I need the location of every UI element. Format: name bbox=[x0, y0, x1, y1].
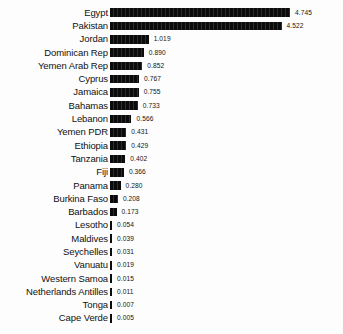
value-label: 0.755 bbox=[144, 88, 161, 96]
bar bbox=[110, 195, 118, 204]
category-label: Cyprus bbox=[0, 74, 110, 84]
bar bbox=[110, 248, 112, 257]
value-label: 0.280 bbox=[126, 182, 143, 190]
category-label: Bahamas bbox=[0, 101, 110, 111]
value-label: 1.019 bbox=[154, 35, 171, 43]
bar bbox=[110, 75, 139, 84]
value-label: 0.054 bbox=[117, 221, 134, 229]
category-label: Yemen Arab Rep bbox=[0, 61, 110, 71]
value-label: 0.208 bbox=[123, 195, 140, 203]
bar-texture bbox=[110, 141, 126, 150]
bar-track: 0.005 bbox=[110, 312, 343, 325]
bar-row: Ethiopia0.429 bbox=[0, 139, 343, 152]
category-label: Vanuatu bbox=[0, 260, 110, 270]
bar bbox=[110, 115, 131, 124]
bar-track: 0.429 bbox=[110, 139, 343, 152]
bar-track: 0.431 bbox=[110, 126, 343, 139]
category-label: Dominican Rep bbox=[0, 48, 110, 58]
bar-track: 0.208 bbox=[110, 192, 343, 205]
value-label: 0.011 bbox=[117, 288, 134, 296]
bar bbox=[110, 274, 112, 283]
bar-track: 0.755 bbox=[110, 86, 343, 99]
bar-texture bbox=[110, 234, 112, 243]
bar-track: 4.745 bbox=[110, 6, 343, 19]
bar-row: Cape Verde0.005 bbox=[0, 312, 343, 325]
bar-row: Bahamas0.733 bbox=[0, 99, 343, 112]
bar-row: Cyprus0.767 bbox=[0, 72, 343, 85]
value-label: 0.890 bbox=[149, 49, 166, 57]
bar-track: 0.011 bbox=[110, 285, 343, 298]
bar-texture bbox=[110, 261, 112, 270]
bar-row: Western Samoa0.015 bbox=[0, 272, 343, 285]
bar-texture bbox=[110, 168, 124, 177]
bar bbox=[110, 128, 126, 137]
value-label: 0.431 bbox=[131, 128, 148, 136]
value-label: 0.039 bbox=[117, 235, 134, 243]
bar bbox=[110, 35, 149, 44]
value-label: 0.031 bbox=[117, 248, 134, 256]
value-label: 0.767 bbox=[144, 75, 161, 83]
bar-track: 0.402 bbox=[110, 152, 343, 165]
bar-chart: Egypt4.745Pakistan4.522Jordan1.019Domini… bbox=[0, 0, 343, 334]
bar bbox=[110, 48, 144, 57]
bar-row: Pakistan4.522 bbox=[0, 19, 343, 32]
bar bbox=[110, 221, 112, 230]
bar-track: 4.522 bbox=[110, 19, 343, 32]
category-label: Maldives bbox=[0, 234, 110, 244]
bar bbox=[110, 301, 112, 310]
category-label: Tanzania bbox=[0, 154, 110, 164]
bar-row: Netherlands Antilles0.011 bbox=[0, 285, 343, 298]
bar-track: 0.366 bbox=[110, 166, 343, 179]
bar-track: 0.031 bbox=[110, 245, 343, 258]
value-label: 4.522 bbox=[287, 22, 304, 30]
category-label: Lesotho bbox=[0, 220, 110, 230]
category-label: Tonga bbox=[0, 300, 110, 310]
category-label: Yemen PDR bbox=[0, 127, 110, 137]
bar-track: 0.019 bbox=[110, 259, 343, 272]
bar-texture bbox=[110, 128, 126, 137]
bar-row: Maldives0.039 bbox=[0, 232, 343, 245]
bar-row: Egypt4.745 bbox=[0, 6, 343, 19]
bar-track: 0.566 bbox=[110, 112, 343, 125]
bar bbox=[110, 141, 126, 150]
value-label: 0.566 bbox=[136, 115, 153, 123]
category-label: Pakistan bbox=[0, 21, 110, 31]
category-label: Burkina Faso bbox=[0, 194, 110, 204]
value-label: 0.852 bbox=[147, 62, 164, 70]
bar-texture bbox=[110, 48, 144, 57]
value-label: 0.733 bbox=[143, 102, 160, 110]
bar-row: Yemen PDR0.431 bbox=[0, 126, 343, 139]
category-label: Seychelles bbox=[0, 247, 110, 257]
category-label: Jordan bbox=[0, 34, 110, 44]
bar-track: 0.039 bbox=[110, 232, 343, 245]
value-label: 0.015 bbox=[117, 275, 134, 283]
bar-track: 0.733 bbox=[110, 99, 343, 112]
bar bbox=[110, 101, 138, 110]
bar-texture bbox=[110, 274, 112, 283]
category-label: Lebanon bbox=[0, 114, 110, 124]
bar-track: 0.015 bbox=[110, 272, 343, 285]
category-label: Egypt bbox=[0, 8, 110, 18]
bar-row: Tonga0.007 bbox=[0, 299, 343, 312]
bar-texture bbox=[110, 314, 112, 323]
bar bbox=[110, 181, 121, 190]
bar-texture bbox=[110, 248, 112, 257]
bar-row: Barbados0.173 bbox=[0, 205, 343, 218]
category-label: Cape Verde bbox=[0, 313, 110, 323]
bar-row: Tanzania0.402 bbox=[0, 152, 343, 165]
bar-row: Seychelles0.031 bbox=[0, 245, 343, 258]
bar-texture bbox=[110, 181, 121, 190]
bar-track: 0.852 bbox=[110, 59, 343, 72]
bar-row: Yemen Arab Rep0.852 bbox=[0, 59, 343, 72]
category-label: Ethiopia bbox=[0, 141, 110, 151]
value-label: 0.019 bbox=[117, 261, 134, 269]
bar-track: 0.767 bbox=[110, 72, 343, 85]
bar-row: Fiji0.366 bbox=[0, 166, 343, 179]
value-label: 4.745 bbox=[295, 9, 312, 17]
bar bbox=[110, 155, 125, 164]
bar-texture bbox=[110, 288, 112, 297]
bar bbox=[110, 261, 112, 270]
bar-texture bbox=[110, 195, 118, 204]
value-label: 0.173 bbox=[122, 208, 139, 216]
bar bbox=[110, 208, 117, 217]
